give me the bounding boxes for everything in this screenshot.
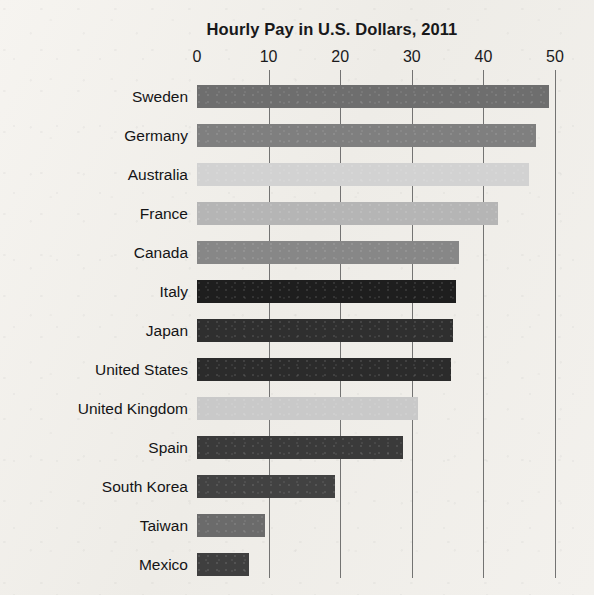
chart-title: Hourly Pay in U.S. Dollars, 2011 [0, 20, 594, 39]
category-label-mexico: Mexico [139, 557, 188, 573]
x-tick-label-40: 40 [474, 48, 492, 66]
gridline-50 [555, 70, 556, 578]
x-tick-label-10: 10 [260, 48, 278, 66]
bar-italy [197, 280, 456, 303]
bar-taiwan [197, 514, 265, 537]
bar-row: Germany [197, 124, 555, 147]
category-label-australia: Australia [128, 167, 188, 183]
bar-spain [197, 436, 403, 459]
category-label-germany: Germany [124, 128, 188, 144]
bar-row: South Korea [197, 475, 555, 498]
category-label-italy: Italy [160, 284, 188, 300]
category-label-united-kingdom: United Kingdom [78, 401, 188, 417]
bar-texture [197, 319, 453, 342]
chart-page: Hourly Pay in U.S. Dollars, 2011 0102030… [0, 0, 594, 595]
bar-sweden [197, 85, 549, 108]
bar-row: United States [197, 358, 555, 381]
bar-row: Canada [197, 241, 555, 264]
bar-row: Spain [197, 436, 555, 459]
bar-texture [197, 553, 249, 576]
bar-texture [197, 280, 456, 303]
bar-row: France [197, 202, 555, 225]
bar-row: Italy [197, 280, 555, 303]
bar-canada [197, 241, 459, 264]
category-label-taiwan: Taiwan [140, 518, 188, 534]
bar-texture [197, 358, 451, 381]
bar-row: United Kingdom [197, 397, 555, 420]
bar-mexico [197, 553, 249, 576]
category-label-spain: Spain [148, 440, 188, 456]
category-label-south-korea: South Korea [102, 479, 188, 495]
bar-row: Japan [197, 319, 555, 342]
bar-texture [197, 514, 265, 537]
bar-row: Sweden [197, 85, 555, 108]
bar-australia [197, 163, 529, 186]
bar-texture [197, 436, 403, 459]
bar-texture [197, 475, 335, 498]
bar-united-kingdom [197, 397, 418, 420]
x-tick-label-20: 20 [331, 48, 349, 66]
bar-texture [197, 124, 536, 147]
bar-france [197, 202, 498, 225]
category-label-canada: Canada [134, 245, 188, 261]
x-tick-label-30: 30 [403, 48, 421, 66]
x-tick-label-0: 0 [193, 48, 202, 66]
bar-japan [197, 319, 453, 342]
bar-texture [197, 202, 498, 225]
bar-germany [197, 124, 536, 147]
bar-row: Australia [197, 163, 555, 186]
bar-texture [197, 397, 418, 420]
bar-south-korea [197, 475, 335, 498]
bar-texture [197, 163, 529, 186]
bar-texture [197, 85, 549, 108]
category-label-sweden: Sweden [132, 89, 188, 105]
bar-texture [197, 241, 459, 264]
bar-united-states [197, 358, 451, 381]
plot-area: 01020304050 SwedenGermanyAustraliaFrance… [197, 85, 555, 578]
category-label-france: France [140, 206, 188, 222]
category-label-japan: Japan [146, 323, 188, 339]
category-label-united-states: United States [95, 362, 188, 378]
x-tick-label-50: 50 [546, 48, 564, 66]
bar-row: Mexico [197, 553, 555, 576]
bar-row: Taiwan [197, 514, 555, 537]
